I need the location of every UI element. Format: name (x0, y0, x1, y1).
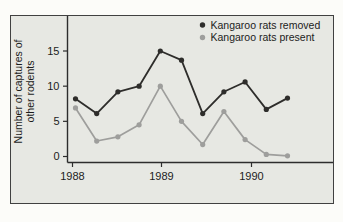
data-point-present (73, 105, 78, 110)
data-point-removed (73, 96, 78, 101)
data-series (73, 48, 290, 158)
y-tick-label: 15 (47, 45, 59, 57)
legend: Kangaroo rats removed Kangaroo rats pres… (200, 19, 321, 43)
rodent-captures-line-chart: 051015198819891990 Kangaroo rats removed… (11, 16, 333, 203)
legend-marker-removed-icon (200, 22, 205, 27)
figure-page: 051015198819891990 Kangaroo rats removed… (0, 0, 343, 222)
data-point-present (179, 119, 184, 124)
data-point-present (243, 137, 248, 142)
y-tick-label: 10 (47, 80, 59, 92)
data-point-removed (137, 84, 142, 89)
data-point-present (94, 138, 99, 143)
y-axis-title-line1: Number of captures of (12, 39, 24, 143)
data-point-removed (158, 48, 163, 53)
legend-label-present: Kangaroo rats present (211, 31, 315, 43)
data-point-present (158, 84, 163, 89)
data-point-present (264, 152, 269, 157)
x-tick-label: 1990 (239, 170, 263, 182)
data-point-removed (264, 107, 269, 112)
y-axis-title-line2: other rodents (24, 61, 36, 123)
data-point-present (115, 134, 120, 139)
data-point-removed (94, 111, 99, 116)
x-tick-label: 1989 (149, 170, 173, 182)
x-tick-label: 1988 (60, 170, 84, 182)
data-point-present (285, 153, 290, 158)
figure-panel: 051015198819891990 Kangaroo rats removed… (10, 15, 334, 204)
legend-marker-present-icon (200, 35, 205, 40)
data-point-removed (221, 89, 226, 94)
data-point-removed (200, 111, 205, 116)
y-tick-label: 5 (53, 115, 59, 127)
y-tick-label: 0 (53, 150, 59, 162)
y-axis-title: Number of captures of other rodents (12, 39, 36, 143)
data-point-removed (285, 96, 290, 101)
data-point-removed (179, 58, 184, 63)
data-point-present (137, 122, 142, 127)
data-point-present (200, 142, 205, 147)
data-point-present (221, 109, 226, 114)
legend-label-removed: Kangaroo rats removed (211, 19, 321, 31)
data-point-removed (115, 89, 120, 94)
data-point-removed (243, 79, 248, 84)
